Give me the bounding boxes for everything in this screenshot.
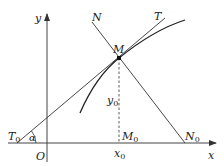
y-axis-label: y [34,12,42,25]
tangent-normal-diagram: y x O N T M y0 M0 x0 N0 T0 α [0,0,224,166]
normal-label: N [91,11,102,24]
diagram-canvas: y x O N T M y0 M0 x0 N0 T0 α [0,0,224,166]
alpha-label: α [29,132,36,143]
curve [80,20,185,113]
point-m-label: M [112,43,125,56]
point-m [117,56,121,60]
t0-label: T0 [8,130,20,144]
tangent-line [17,18,165,143]
x0-label: x0 [114,147,125,161]
x-axis-label: x [208,149,215,162]
origin-label: O [36,150,45,163]
n0-label: N0 [184,130,200,144]
m0-label: M0 [121,130,138,144]
y0-label: y0 [106,94,118,108]
